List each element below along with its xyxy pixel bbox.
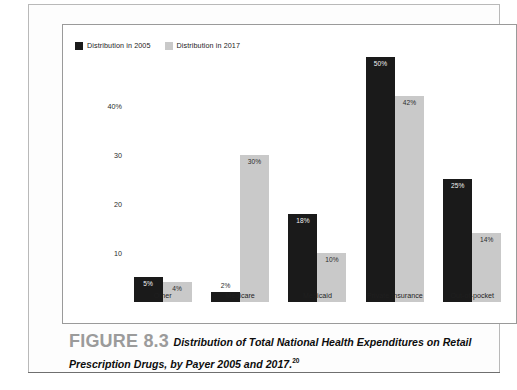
- bar-private-insurance-2005[interactable]: 50%: [366, 57, 395, 302]
- bar-group-private-insurance: 50%42%Private Insurance: [356, 47, 433, 302]
- bar-group-out-of-pocket: 25%14%Out-of-pocket: [434, 47, 511, 302]
- bar-group-medicaid: 18%10%Medicaid: [279, 47, 356, 302]
- bar-medicaid-2005[interactable]: 18%: [288, 214, 317, 302]
- bar-pair: 5%4%: [124, 47, 201, 302]
- y-tick-10: 10: [88, 248, 122, 257]
- bar-value-label: 18%: [288, 217, 317, 224]
- bar-pair: 50%42%: [356, 47, 433, 302]
- y-axis-tick-labels: 40%302010: [78, 24, 122, 324]
- figure-number: FIGURE 8.3: [69, 331, 169, 351]
- figure-caption: FIGURE 8.3 Distribution of Total Nationa…: [69, 330, 509, 374]
- bar-value-label: 30%: [240, 158, 269, 165]
- y-tick-20: 20: [88, 199, 122, 208]
- bar-pair: 2%30%: [201, 47, 278, 302]
- bar-value-label: 50%: [366, 60, 395, 67]
- bar-pair: 25%14%: [434, 47, 511, 302]
- bar-out-of-pocket-2005[interactable]: 25%: [443, 179, 472, 302]
- x-axis-label-out-of-pocket: Out-of-pocket: [412, 291, 517, 300]
- bar-private-insurance-2017[interactable]: 42%: [395, 96, 424, 302]
- bar-medicare-2017[interactable]: 30%: [240, 155, 269, 302]
- bar-pair: 18%10%: [279, 47, 356, 302]
- caption-divider-rule: [28, 372, 500, 373]
- bar-value-label: 5%: [134, 280, 163, 287]
- bar-value-label: 25%: [443, 182, 472, 189]
- caption-superscript: 20: [292, 358, 299, 365]
- bar-group-medicare: 2%30%Medicare: [201, 47, 278, 302]
- bar-value-label: 14%: [472, 236, 501, 243]
- bar-group-other: 5%4%Other: [124, 47, 201, 302]
- bar-value-label: 42%: [395, 99, 424, 106]
- figure-page-plate: Distribution in 2005 Distribution in 201…: [28, 4, 500, 373]
- y-tick-40%: 40%: [88, 101, 122, 110]
- bar-value-label: 10%: [317, 256, 346, 263]
- y-tick-30: 30: [88, 150, 122, 159]
- bar-value-label: 2%: [211, 282, 240, 289]
- bar-groups-container: 5%4%Other2%30%Medicare18%10%Medicaid50%4…: [124, 24, 511, 324]
- plot-area: 40%302010 5%4%Other2%30%Medicare18%10%Me…: [62, 24, 517, 324]
